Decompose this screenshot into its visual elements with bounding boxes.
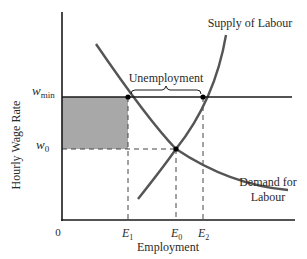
demand-label-line2: Labour: [251, 190, 286, 204]
w0-label: w0: [36, 137, 50, 154]
x-axis-label: Employment: [137, 240, 200, 254]
unemployment-brace: [131, 86, 201, 94]
wmin-label: wmin: [32, 83, 55, 100]
supply-label: Supply of Labour: [208, 16, 293, 30]
point-e1-wmin: [125, 94, 130, 99]
unemployment-label: Unemployment: [129, 71, 204, 85]
e2-label: E2: [197, 226, 209, 242]
y-axis-label: Hourly Wage Rate: [9, 101, 23, 190]
origin-label: 0: [55, 226, 61, 238]
e0-label: E0: [170, 226, 182, 242]
shaded-area: [62, 97, 128, 149]
supply-curve: [138, 35, 226, 199]
point-e2-wmin: [200, 94, 205, 99]
demand-label-line1: Demand for: [239, 175, 297, 189]
point-equilibrium: [173, 146, 178, 151]
e1-label: E1: [121, 226, 133, 242]
labour-market-diagram: Unemployment Supply of Labour Demand for…: [0, 0, 307, 259]
